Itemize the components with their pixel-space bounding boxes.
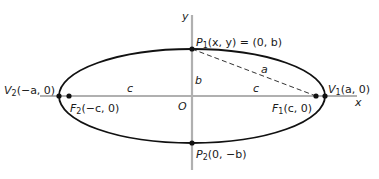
segment-label-c-left: c <box>127 82 133 95</box>
origin-label: O <box>178 100 187 113</box>
point-v2 <box>56 93 61 98</box>
y-axis-label: y <box>181 10 189 23</box>
segment-label-b: b <box>195 74 202 87</box>
label-p1: P1(x, y) = (0, b) <box>196 36 282 50</box>
point-v1 <box>322 93 327 98</box>
segment-label-c-right: c <box>253 82 259 95</box>
ellipse-diagram: y x O P1(x, y) = (0, b) P2(0, −b) V1(a, … <box>0 0 379 179</box>
label-f2: F2(−c, 0) <box>70 102 119 116</box>
x-axis-label: x <box>354 96 362 109</box>
label-v2: V2(−a, 0) <box>4 84 55 98</box>
point-p2 <box>189 140 194 145</box>
point-f1 <box>313 93 318 98</box>
label-f1: F1(c, 0) <box>272 102 312 116</box>
point-p1 <box>189 46 194 51</box>
label-v1: V1(a, 0) <box>328 83 370 97</box>
point-f2 <box>66 93 71 98</box>
segment-label-a: a <box>261 63 268 76</box>
label-p2: P2(0, −b) <box>196 148 247 162</box>
